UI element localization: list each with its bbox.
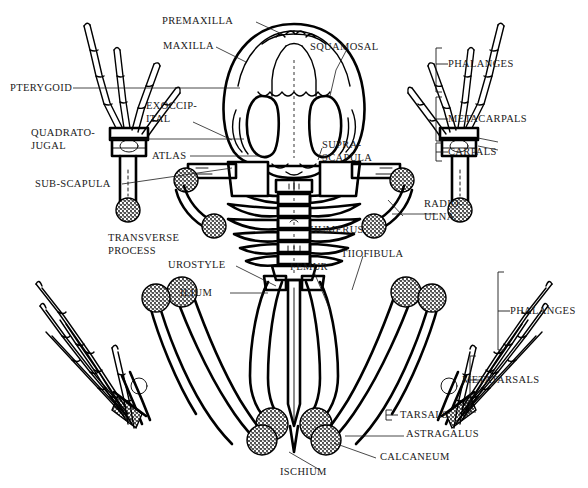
label-tibiofibula: TIIOFIBULA xyxy=(341,248,403,260)
left-forelimb-group xyxy=(84,23,226,238)
bracket-label-tarsals: TARSALS xyxy=(400,409,448,421)
label-supra-scapula-line1: SUPRA- xyxy=(322,139,361,151)
label-exoccipital-line1: EXOCCIP- xyxy=(146,100,197,112)
label-urostyle: UROSTYLE xyxy=(168,259,226,271)
label-calcaneum: CALCANEUM xyxy=(380,451,450,463)
left-hindlimb-group xyxy=(36,277,277,455)
label-quadratojugal-line2: JUGAL xyxy=(31,140,66,152)
frog-skeleton-figure: PREMAXILLA MAXILLA SQUAMOSAL PTERYGOID E… xyxy=(0,0,588,488)
label-atlas: ATLAS xyxy=(152,150,186,162)
label-quadratojugal-line1: QUADRATO- xyxy=(31,127,95,139)
bracket-label-carpals: CARPALS xyxy=(448,146,497,158)
label-sub-scapula: SUB-SCAPULA xyxy=(35,178,111,190)
label-transverse-process-line2: PROCESS xyxy=(108,245,156,257)
label-maxilla: MAXILLA xyxy=(163,40,214,52)
label-supra-scapula-line2: SCAPULA xyxy=(322,152,372,164)
label-radio-ulna-line2: ULNA xyxy=(424,211,455,223)
label-exoccipital-line2: ITAL xyxy=(146,113,170,125)
label-premaxilla: PREMAXILLA xyxy=(162,15,233,27)
label-ischium: ISCHIUM xyxy=(280,466,327,478)
bracket-label-phalanges-hindlimb: PHALANGES xyxy=(510,305,576,317)
bracket-label-phalanges-forelimb: PHALANGES xyxy=(448,58,514,70)
label-humerus: HUMERUS xyxy=(310,224,364,236)
label-radio-ulna-line1: RADIO- xyxy=(424,198,463,210)
label-transverse-process-line1: TRANSVERSE xyxy=(108,232,179,244)
label-femur: FEMUR xyxy=(290,261,328,273)
skeleton-illustration xyxy=(0,0,588,488)
label-squamosal: SQUAMOSAL xyxy=(310,41,379,53)
label-ilium: ILIUM xyxy=(180,287,212,299)
bracket-label-metatarsals: METATARSALS xyxy=(462,374,539,386)
label-pterygoid: PTERYGOID xyxy=(10,82,72,94)
label-astragalus: ASTRAGALUS xyxy=(406,428,479,440)
bracket-label-metacarpals: METACARPALS xyxy=(448,113,527,125)
